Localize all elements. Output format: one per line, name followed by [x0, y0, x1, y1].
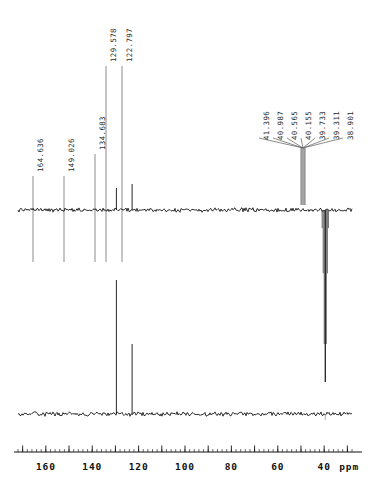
- axis-tick-label-60: 60: [271, 461, 284, 472]
- axis-tick-label-100: 100: [175, 461, 195, 472]
- solvent-label-41-396: 41.396: [262, 111, 271, 140]
- axis-tick-label-120: 120: [129, 461, 149, 472]
- axis-tick-label-80: 80: [225, 461, 238, 472]
- peak-label-122: 122.797: [125, 28, 134, 62]
- peak-label-164: 164.636: [36, 138, 45, 172]
- spectrum-canvas: 164.636 149.026 134.683 129.578 122.797 …: [0, 0, 368, 491]
- axis-tick-label-140: 140: [82, 461, 102, 472]
- axis-tick-label-40: 40: [318, 461, 331, 472]
- dept-baseline-trace: [18, 208, 352, 213]
- axis-tick-label-160: 160: [36, 461, 56, 472]
- solvent-label-40-155: 40.155: [304, 111, 313, 140]
- peak-label-129: 129.578: [109, 28, 118, 62]
- solvent-label-39-733: 39.733: [318, 111, 327, 140]
- solvent-leader-c4: [301, 138, 303, 148]
- peak-label-134: 134.683: [98, 116, 107, 150]
- axis-unit-label: ppm: [339, 461, 359, 472]
- solvent-label-40-565: 40.565: [290, 111, 299, 140]
- spectrum-vector-layer: [0, 0, 368, 491]
- peak-label-149: 149.026: [67, 138, 76, 172]
- solvent-label-40-987: 40.987: [276, 111, 285, 140]
- carbon-baseline-trace: [18, 412, 352, 417]
- solvent-label-39-311: 39.311: [332, 111, 341, 140]
- solvent-label-38-901: 38.901: [346, 111, 355, 140]
